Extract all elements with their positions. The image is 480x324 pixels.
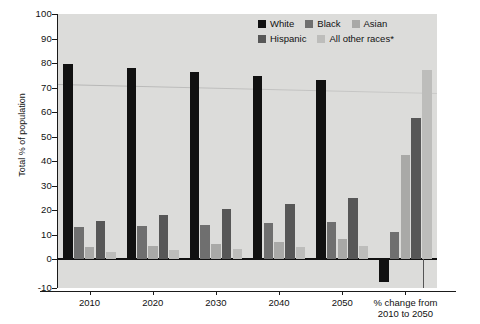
bar-asian-3 bbox=[274, 242, 284, 259]
y-axis-tick-label: 40 bbox=[0, 155, 52, 166]
y-axis-tick-mark bbox=[52, 186, 57, 187]
legend-label: Black bbox=[317, 18, 340, 29]
bar-black-3 bbox=[264, 223, 274, 259]
y-axis-tick-mark bbox=[52, 112, 57, 113]
x-axis-tick-mark bbox=[405, 291, 406, 295]
y-axis-tick-mark bbox=[52, 210, 57, 211]
legend-swatch-icon bbox=[317, 35, 325, 43]
bar-asian-2 bbox=[211, 244, 221, 259]
legend-item-hispanic[interactable]: Hispanic bbox=[258, 33, 306, 44]
bar-all-other-races-2 bbox=[233, 249, 243, 259]
y-axis-line bbox=[57, 14, 58, 288]
y-axis-tick-label: 30 bbox=[0, 180, 52, 191]
bar-white-3 bbox=[253, 76, 263, 259]
y-axis-tick-label: 50 bbox=[0, 131, 52, 142]
y-axis-tick-mark bbox=[52, 288, 57, 289]
legend-swatch-icon bbox=[258, 20, 266, 28]
bar-asian-4 bbox=[338, 239, 348, 259]
legend-swatch-icon bbox=[305, 20, 313, 28]
y-axis-tick-label: 0 bbox=[0, 253, 52, 264]
legend-swatch-icon bbox=[352, 20, 360, 28]
bar-hispanic-3 bbox=[285, 204, 295, 259]
x-axis-tick-mark bbox=[90, 291, 91, 295]
legend-row-2: HispanicAll other races* bbox=[258, 33, 405, 44]
bar-all-other-races-3 bbox=[296, 247, 306, 259]
y-axis-tick-label: 60 bbox=[0, 106, 52, 117]
bar-white-4 bbox=[316, 80, 326, 259]
bar-hispanic-0 bbox=[96, 221, 106, 259]
y-axis-tick-mark bbox=[52, 235, 57, 236]
x-axis-line bbox=[40, 291, 456, 292]
bar-black-1 bbox=[137, 226, 147, 259]
y-axis-tick-label: 10 bbox=[0, 229, 52, 240]
category-separator-line bbox=[423, 259, 424, 288]
bar-all-other-races-5 bbox=[422, 70, 432, 259]
chart-legend: WhiteBlackAsian HispanicAll other races* bbox=[258, 18, 405, 48]
bar-hispanic-5 bbox=[411, 118, 421, 259]
y-axis-tick-label: 70 bbox=[0, 82, 52, 93]
legend-label: All other races* bbox=[329, 33, 393, 44]
bar-asian-5 bbox=[401, 155, 411, 259]
bar-black-4 bbox=[327, 222, 337, 259]
y-axis-tick-mark bbox=[52, 14, 57, 15]
x-axis-tick-mark bbox=[216, 291, 217, 295]
bar-white-5 bbox=[379, 259, 389, 282]
legend-item-white[interactable]: White bbox=[258, 18, 294, 29]
legend-item-asian[interactable]: Asian bbox=[352, 18, 388, 29]
plot-area-background bbox=[58, 14, 437, 259]
x-axis-tick-label-line2: 2010 to 2050 bbox=[360, 309, 450, 320]
bar-hispanic-1 bbox=[159, 215, 169, 259]
bar-white-1 bbox=[127, 68, 137, 259]
y-axis-tick-mark bbox=[52, 63, 57, 64]
y-axis-tick-label: 80 bbox=[0, 57, 52, 68]
bar-all-other-races-4 bbox=[359, 246, 369, 259]
y-axis-tick-label: 100 bbox=[0, 8, 52, 19]
bar-black-2 bbox=[200, 225, 210, 259]
legend-label: Hispanic bbox=[270, 33, 306, 44]
x-axis-tick-mark bbox=[279, 291, 280, 295]
legend-item-all-other-races[interactable]: All other races* bbox=[317, 33, 393, 44]
y-axis-tick-mark bbox=[52, 137, 57, 138]
y-axis-tick-mark bbox=[52, 259, 57, 260]
y-axis-tick-mark bbox=[52, 161, 57, 162]
bar-asian-1 bbox=[148, 246, 158, 259]
legend-row-1: WhiteBlackAsian bbox=[258, 18, 405, 29]
x-axis-tick-mark bbox=[342, 291, 343, 295]
bar-black-0 bbox=[74, 227, 84, 259]
y-axis-tick-label: -10 bbox=[0, 282, 52, 293]
x-axis-tick-label-line1: % change from bbox=[360, 298, 450, 309]
bar-hispanic-4 bbox=[348, 198, 358, 259]
y-axis-tick-label: 20 bbox=[0, 204, 52, 215]
bar-white-2 bbox=[190, 72, 200, 259]
y-axis-tick-label: 90 bbox=[0, 33, 52, 44]
bar-hispanic-2 bbox=[222, 209, 232, 259]
legend-item-black[interactable]: Black bbox=[305, 18, 340, 29]
legend-label: Asian bbox=[364, 18, 388, 29]
bar-asian-0 bbox=[85, 247, 95, 259]
bar-all-other-races-0 bbox=[106, 252, 116, 259]
y-axis-tick-mark bbox=[52, 39, 57, 40]
legend-swatch-icon bbox=[258, 35, 266, 43]
x-axis-tick-mark bbox=[153, 291, 154, 295]
population-bar-chart: Total % of population 100908070605040302… bbox=[0, 0, 480, 324]
legend-label: White bbox=[270, 18, 294, 29]
bar-all-other-races-1 bbox=[169, 250, 179, 259]
x-axis-tick-label: % change from2010 to 2050 bbox=[360, 298, 450, 319]
bar-white-0 bbox=[63, 64, 73, 259]
y-axis-tick-mark bbox=[52, 88, 57, 89]
bar-black-5 bbox=[390, 232, 400, 259]
